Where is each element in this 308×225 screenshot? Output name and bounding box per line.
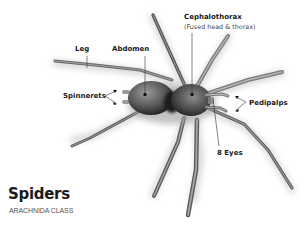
label-cephalothorax-note: (Fused head & thorax) — [184, 24, 256, 30]
spider-anatomy-diagram: Leg Abdomen Cephalothorax (Fused head & … — [0, 0, 308, 225]
leader-spinnerets — [105, 91, 116, 103]
label-spinnerets: Spinnerets — [63, 93, 106, 100]
leader-pedipalps — [236, 97, 246, 110]
diagram-subtitle: ARACHNIDA CLASS — [9, 207, 73, 214]
diagram-title: Spiders — [8, 187, 70, 202]
leader-eyes — [213, 99, 219, 146]
label-leg: Leg — [75, 46, 89, 53]
cephalothorax-shape — [171, 84, 211, 116]
label-abdomen: Abdomen — [112, 46, 149, 53]
leg-6 — [208, 108, 292, 188]
label-eyes: 8 Eyes — [217, 150, 243, 157]
label-pedipalps: Pedipalps — [249, 100, 288, 107]
label-cephalothorax: Cephalothorax — [184, 14, 242, 21]
